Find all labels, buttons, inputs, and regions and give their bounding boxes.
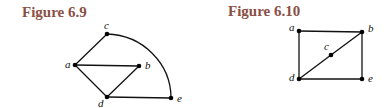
graph-diagrams: abcdeabcde [0,0,392,108]
vertex-d [105,95,110,100]
vertex-label-d: d [289,71,295,83]
vertex-c [105,32,110,37]
vertex-label-b: b [145,59,151,71]
vertex-e [169,96,174,101]
vertex-label-d: d [98,97,104,108]
vertex-label-b: b [368,22,374,34]
vertex-c [329,53,334,58]
vertex-d [297,77,302,82]
vertex-a [297,29,302,34]
vertex-e [360,77,365,82]
edge-d-c [299,55,331,79]
vertex-b [360,30,365,35]
figure-6-10-graph: abcde [289,21,374,84]
vertex-label-e: e [368,72,373,84]
vertex-label-c: c [104,19,109,31]
vertex-b [137,64,142,69]
edge-a-d [75,65,107,97]
vertex-label-e: e [177,92,182,104]
figure-6-9-graph: abcde [65,19,182,108]
edge-c-b [331,32,362,55]
edge-d-e [107,97,171,98]
vertex-label-a: a [65,58,71,70]
edge-a-b [299,31,362,32]
edge-a-b [75,65,139,66]
edge-a-c [75,34,107,65]
vertex-label-a: a [289,21,295,33]
vertex-label-c: c [324,40,329,52]
edge-b-d [107,66,139,97]
vertex-a [73,63,78,68]
